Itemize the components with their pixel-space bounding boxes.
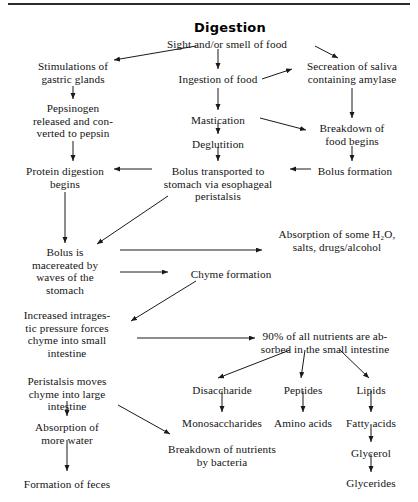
node-bolus_transport: Bolus transported to stomach via esophag… (148, 165, 288, 203)
node-ingestion: Ingestion of food (163, 73, 273, 86)
node-absorption_h2o: Absorption of some H₂O, salts, drugs/alc… (257, 228, 417, 253)
node-fatty_acids: Fatty acids (330, 417, 412, 430)
flow-arrow (131, 281, 196, 321)
node-increased_press: Increased intrages- tic pressure forces … (5, 309, 130, 359)
node-disaccharide: Disaccharide (172, 384, 272, 397)
node-breakdown_bact: Breakdown of nutrients by bacteria (142, 443, 302, 468)
node-sight: Sight and/or smell of food (147, 38, 307, 51)
node-peptides: Peptides (267, 384, 339, 397)
node-lipids: Lipids (340, 384, 402, 397)
node-breakdown_food: Breakdown of food begins (297, 122, 407, 147)
node-peristalsis_moves: Peristalsis moves chyme into large intes… (5, 375, 130, 413)
flow-arrow (315, 46, 338, 58)
node-bolus_macerated: Bolus is macereated by waves of the stom… (10, 246, 120, 296)
node-bolus_formation: Bolus formation (300, 165, 410, 178)
node-absorption_water: Absorption of more water (12, 421, 122, 446)
node-pepsinogen: Pepsinogen released and con- verted to p… (13, 102, 133, 140)
node-protein_digest: Protein digestion begins (5, 165, 125, 190)
node-mastication: Mastication (168, 114, 268, 127)
node-glycerol: Glycerol (333, 447, 409, 460)
flow-arrow (97, 196, 168, 244)
node-ninety_percent: 90% of all nutrients are ab- sorbed in t… (233, 330, 418, 355)
node-stimulations: Stimulations of gastric glands (13, 60, 133, 85)
node-deglutition: Deglutition (168, 138, 268, 151)
node-chyme_formation: Chyme formation (173, 268, 289, 281)
node-formation_feces: Formation of feces (2, 478, 132, 491)
node-secreation: Secreation of saliva containing amylase (288, 60, 416, 85)
node-glycerides: Glycerides (329, 477, 413, 490)
node-title: Digestion (150, 20, 310, 35)
